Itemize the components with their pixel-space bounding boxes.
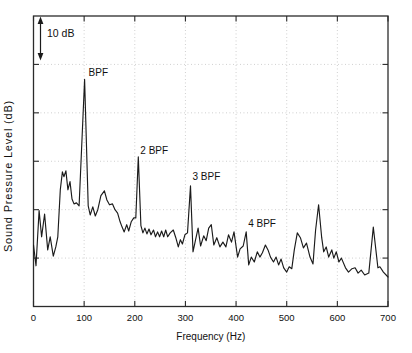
x-tick-label: 200 [127, 312, 143, 323]
x-tick-label: 500 [279, 312, 295, 323]
peak-labels: BPF2 BPF3 BPF4 BPF [89, 67, 276, 229]
x-tick-label: 700 [380, 312, 396, 323]
y-axis-label: Sound Pressure Level (dB) [2, 100, 14, 252]
scale-bar: 10 dB [38, 17, 75, 61]
peak-label: 4 BPF [248, 218, 276, 229]
x-tick-label: 300 [177, 312, 193, 323]
peak-label: 3 BPF [193, 171, 221, 182]
peak-label: BPF [89, 67, 108, 78]
spectrum-figure: 0100200300400500600700 BPF2 BPF3 BPF4 BP… [0, 0, 412, 353]
scale-bar-label: 10 dB [47, 27, 74, 39]
x-tick-label: 0 [31, 312, 36, 323]
scale-arrow-up-head [38, 17, 44, 25]
peak-label: 2 BPF [140, 145, 168, 156]
x-tick-label: 400 [228, 312, 244, 323]
chart-canvas: 0100200300400500600700 BPF2 BPF3 BPF4 BP… [0, 0, 412, 353]
x-tick-labels: 0100200300400500600700 [31, 312, 396, 323]
x-tick-label: 100 [76, 312, 92, 323]
x-tick-label: 600 [329, 312, 345, 323]
scale-arrow-down-head [38, 53, 44, 61]
x-axis-label: Frequency (Hz) [176, 331, 245, 342]
